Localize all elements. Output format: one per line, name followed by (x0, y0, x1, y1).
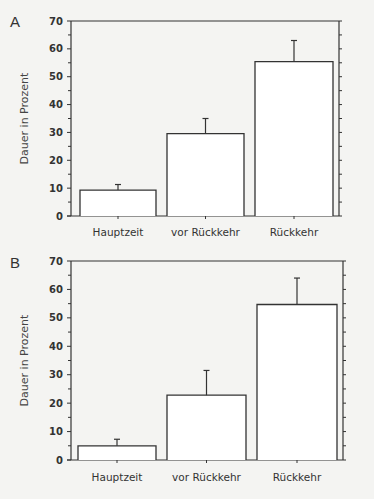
x-category-label: Hauptzeit (93, 226, 144, 238)
y-axis-title: Dauer in Prozent (18, 314, 31, 406)
x-category-label: Hauptzeit (92, 471, 143, 483)
bar-1 (78, 446, 156, 460)
panel-letter: A (10, 13, 20, 30)
y-tick-label: 40 (49, 341, 63, 352)
bar-3 (255, 62, 333, 216)
y-tick-label: 10 (49, 183, 63, 194)
bar-3 (257, 304, 337, 460)
x-category-label: vor Rückkehr (172, 471, 241, 483)
y-axis-title: Dauer in Prozent (18, 72, 31, 164)
bar-1 (80, 190, 156, 216)
y-tick-label: 20 (49, 155, 63, 166)
y-tick-label: 70 (49, 16, 63, 27)
panel-a: ADauer in Prozent010203040506070Hauptzei… (10, 13, 342, 238)
panel-letter: B (10, 254, 20, 271)
y-tick-label: 0 (56, 211, 63, 222)
y-tick-label: 20 (49, 398, 63, 409)
y-tick-label: 10 (49, 426, 63, 437)
y-tick-label: 40 (49, 99, 63, 110)
bar-2 (167, 395, 246, 460)
y-tick-label: 30 (49, 369, 63, 380)
bar-2 (167, 134, 244, 216)
y-tick-label: 50 (49, 312, 63, 323)
figure: ADauer in Prozent010203040506070Hauptzei… (0, 0, 374, 499)
y-tick-label: 70 (49, 256, 63, 267)
x-category-label: Rückkehr (270, 226, 319, 238)
y-tick-label: 50 (49, 71, 63, 82)
y-tick-label: 60 (49, 284, 63, 295)
y-tick-label: 30 (49, 127, 63, 138)
x-category-label: Rückkehr (273, 471, 322, 483)
y-tick-label: 60 (49, 43, 63, 54)
y-tick-label: 0 (56, 455, 63, 466)
x-category-label: vor Rückkehr (171, 226, 240, 238)
panel-b: BDauer in Prozent010203040506070Hauptzei… (10, 254, 346, 483)
